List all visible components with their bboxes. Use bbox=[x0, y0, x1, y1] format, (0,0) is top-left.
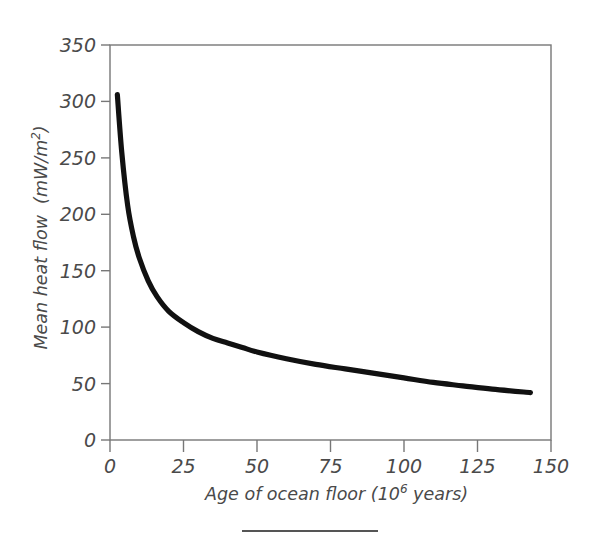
y-axis-title-base: Mean heat flow (mW/m bbox=[31, 140, 51, 350]
heat-flow-curve bbox=[117, 95, 530, 393]
y-tick-label-50: 50 bbox=[72, 373, 96, 395]
heat-flow-chart: 0 50 100 150 200 250 300 350 0 25 50 75 … bbox=[0, 0, 599, 550]
y-tick-label-100: 100 bbox=[60, 316, 96, 338]
x-axis-title: Age of ocean floor (106 years) bbox=[166, 482, 496, 504]
y-tick-label-0: 0 bbox=[84, 429, 96, 451]
x-axis-ticks bbox=[110, 440, 551, 452]
heat-flow-figure: 0 50 100 150 200 250 300 350 0 25 50 75 … bbox=[0, 0, 599, 550]
y-axis-tick-labels: 0 50 100 150 200 250 300 350 bbox=[60, 34, 96, 451]
plot-frame bbox=[110, 45, 551, 440]
x-tick-label-150: 150 bbox=[533, 455, 569, 477]
y-tick-label-150: 150 bbox=[60, 260, 96, 282]
y-axis-title-exponent: 2 bbox=[29, 132, 43, 140]
y-tick-label-200: 200 bbox=[60, 203, 96, 225]
x-tick-label-50: 50 bbox=[245, 455, 269, 477]
x-axis-title-base: Age of ocean floor (10 bbox=[204, 484, 400, 504]
y-axis-title: Mean heat flow (mW/m2) bbox=[29, 97, 51, 388]
y-tick-label-250: 250 bbox=[60, 147, 96, 169]
x-tick-label-100: 100 bbox=[386, 455, 422, 477]
x-axis-title-tail: years) bbox=[408, 484, 469, 504]
y-tick-label-350: 350 bbox=[60, 34, 96, 56]
y-tick-label-300: 300 bbox=[60, 90, 96, 112]
x-tick-label-0: 0 bbox=[104, 455, 116, 477]
x-axis-tick-labels: 0 25 50 75 100 125 150 bbox=[104, 455, 569, 477]
y-axis-title-tail: ) bbox=[31, 125, 51, 134]
x-tick-label-125: 125 bbox=[459, 455, 495, 477]
y-axis-ticks bbox=[101, 45, 110, 440]
x-tick-label-75: 75 bbox=[318, 455, 342, 477]
x-tick-label-25: 25 bbox=[171, 455, 195, 477]
